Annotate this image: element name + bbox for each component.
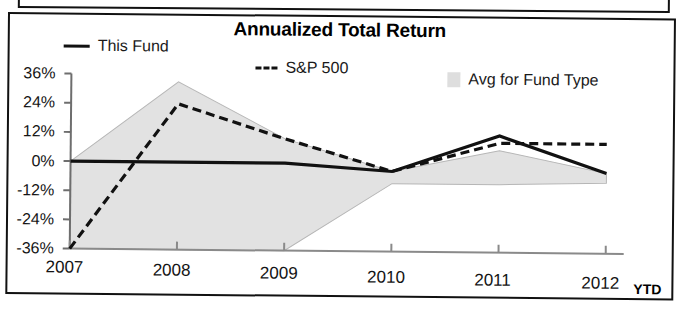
y-tick-label: -36% [0,240,54,257]
x-tick-label: 2009 [260,265,298,282]
ytd-label: YTD [633,281,661,297]
previous-box-edge [18,0,670,13]
y-tick-label: 0% [0,152,55,169]
x-tick-label: 2012 [581,275,619,292]
x-axis-line [70,249,624,254]
x-tick-label: 2008 [153,262,191,279]
x-tick-label: 2010 [367,268,405,285]
y-tick-label: 12% [0,123,55,140]
y-tick-label: 36% [0,65,55,82]
plot-area: 36%24%12%0%-12%-24%-36% 2007200820092010… [5,12,672,296]
y-tick-label: -24% [0,211,54,228]
chart-canvas [5,12,672,296]
scanned-page: Annualized Total Return This Fund S&P 50… [0,0,682,311]
x-tick-label: 2011 [474,271,511,288]
y-tick-label: 24% [0,94,55,111]
figure-content: Annualized Total Return This Fund S&P 50… [5,12,672,296]
x-tick-label: 2007 [45,258,83,275]
y-tick-label: -12% [0,182,54,199]
